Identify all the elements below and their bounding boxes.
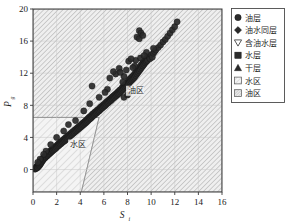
data-point — [54, 134, 60, 140]
data-point — [102, 89, 108, 95]
svg-text:i: i — [129, 216, 131, 222]
legend-marker-square-icon — [235, 52, 241, 58]
data-point — [89, 83, 95, 89]
x-tick-label: 16 — [218, 197, 228, 207]
y-axis-title: P g — [3, 97, 15, 108]
legend-marker-swatch-light-hatch-icon — [234, 77, 241, 84]
legend-label: 干层 — [245, 64, 261, 73]
data-point — [72, 117, 78, 123]
y-tick-label: 16 — [19, 36, 29, 46]
legend-marker-swatch-dense-hatch-icon — [234, 90, 241, 97]
svg-text:g: g — [9, 97, 15, 100]
svg-text:S: S — [120, 210, 125, 220]
data-point — [35, 159, 41, 165]
annotation-label: 水区 — [70, 139, 86, 149]
legend-label: 含油水层 — [245, 38, 277, 48]
data-point — [174, 19, 180, 25]
y-tick-label: 0 — [24, 165, 29, 175]
data-point — [117, 69, 123, 75]
data-point — [140, 32, 146, 38]
y-tick-label: 4 — [24, 133, 29, 143]
data-point — [128, 56, 134, 62]
data-point — [48, 142, 54, 148]
chart-figure: 油区水区 0246810121416048121620 S i P g 油层油水… — [0, 0, 287, 224]
svg-text:P: P — [3, 101, 13, 108]
data-point — [120, 79, 126, 85]
data-point — [141, 52, 147, 58]
data-point — [96, 94, 102, 100]
x-tick-label: 2 — [54, 197, 59, 207]
annotation-label: 油区 — [128, 85, 144, 95]
legend-label: 水层 — [245, 50, 261, 60]
x-tick-label: 8 — [125, 197, 130, 207]
legend-label: 水区 — [245, 76, 261, 86]
x-tick-label: 6 — [102, 197, 107, 207]
legend-marker-circle-icon — [235, 14, 241, 20]
legend-item-水区[interactable]: 水区 — [234, 76, 260, 86]
data-point — [130, 64, 136, 70]
y-tick-label: 8 — [24, 101, 29, 111]
legend-label: 油区 — [245, 88, 261, 98]
data-point — [150, 45, 156, 51]
x-tick-label: 12 — [170, 197, 179, 207]
data-point — [65, 121, 71, 127]
y-tick-label: 20 — [19, 4, 29, 14]
x-tick-label: 14 — [194, 197, 204, 207]
x-axis-title: S i — [120, 210, 131, 222]
y-tick-label: 12 — [19, 68, 28, 78]
x-tick-label: 0 — [31, 197, 36, 207]
chart-legend[interactable]: 油层油水同层含油水层水层干层水区油区 — [232, 9, 285, 103]
scatter-plot-svg: 油区水区 0246810121416048121620 S i P g 油层油水… — [0, 0, 287, 224]
data-point — [61, 128, 67, 134]
x-tick-label: 10 — [147, 197, 157, 207]
legend-item-油区[interactable]: 油区 — [234, 88, 260, 98]
data-point — [107, 75, 113, 81]
data-point — [123, 67, 129, 73]
data-point — [87, 101, 93, 107]
data-point — [81, 108, 87, 114]
x-tick-label: 4 — [78, 197, 83, 207]
legend-label: 油水同层 — [245, 25, 277, 35]
legend-label: 油层 — [245, 13, 261, 23]
data-point — [110, 69, 116, 75]
